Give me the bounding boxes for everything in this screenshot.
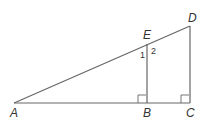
segment-ad xyxy=(14,26,190,103)
angle-label-2: 2 xyxy=(151,46,156,56)
geometry-diagram: A B C D E 1 2 xyxy=(0,0,208,122)
label-d: D xyxy=(188,11,197,25)
label-c: C xyxy=(186,106,195,120)
label-b: B xyxy=(143,106,151,120)
label-e: E xyxy=(143,28,152,42)
right-angle-marker-c xyxy=(181,95,189,103)
right-angle-marker-b xyxy=(138,95,146,103)
angle-label-1: 1 xyxy=(140,50,145,60)
label-a: A xyxy=(9,106,18,120)
